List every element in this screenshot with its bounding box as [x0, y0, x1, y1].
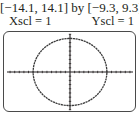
graph-plot [0, 0, 139, 121]
axes [7, 34, 133, 110]
